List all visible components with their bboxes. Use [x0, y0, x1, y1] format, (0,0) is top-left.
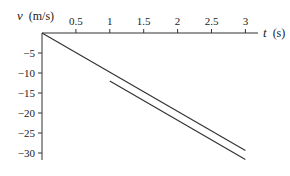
x-axis-title: t (s)	[263, 25, 285, 40]
series-line-1	[42, 33, 245, 151]
series-line-2	[110, 81, 246, 159]
x-ticks: 0.511.522.53	[69, 15, 249, 33]
y-axis-title: v (m/s)	[17, 8, 54, 23]
y-tick-label: −10	[18, 67, 36, 79]
x-tick-label: 1	[107, 15, 113, 27]
y-tick-label: −5	[23, 47, 35, 59]
x-tick-label: 2	[175, 15, 181, 27]
x-tick-label: 1.5	[137, 15, 151, 27]
series-lines	[42, 33, 245, 159]
y-ticks: −5−10−15−20−25−30	[18, 47, 42, 159]
y-tick-label: −20	[18, 107, 36, 119]
y-tick-label: −15	[18, 87, 36, 99]
y-tick-label: −30	[18, 147, 36, 159]
y-tick-label: −25	[18, 127, 36, 139]
x-tick-label: 0.5	[69, 15, 83, 27]
x-tick-label: 2.5	[205, 15, 219, 27]
x-tick-label: 3	[243, 15, 249, 27]
velocity-time-chart: 0.511.522.53 −5−10−15−20−25−30 v (m/s) t…	[0, 0, 290, 176]
